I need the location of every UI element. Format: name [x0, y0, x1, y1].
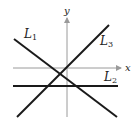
coordinate-diagram: x y L1 L2 L3 [0, 0, 134, 122]
diagram-canvas: x y L1 L2 L3 [0, 0, 134, 122]
y-axis-label: y [63, 5, 70, 16]
line-l3-label: L3 [99, 34, 113, 49]
line-l2-label: L2 [103, 70, 117, 85]
line-l1-label: L1 [23, 27, 37, 42]
x-axis-label: x [125, 62, 131, 73]
